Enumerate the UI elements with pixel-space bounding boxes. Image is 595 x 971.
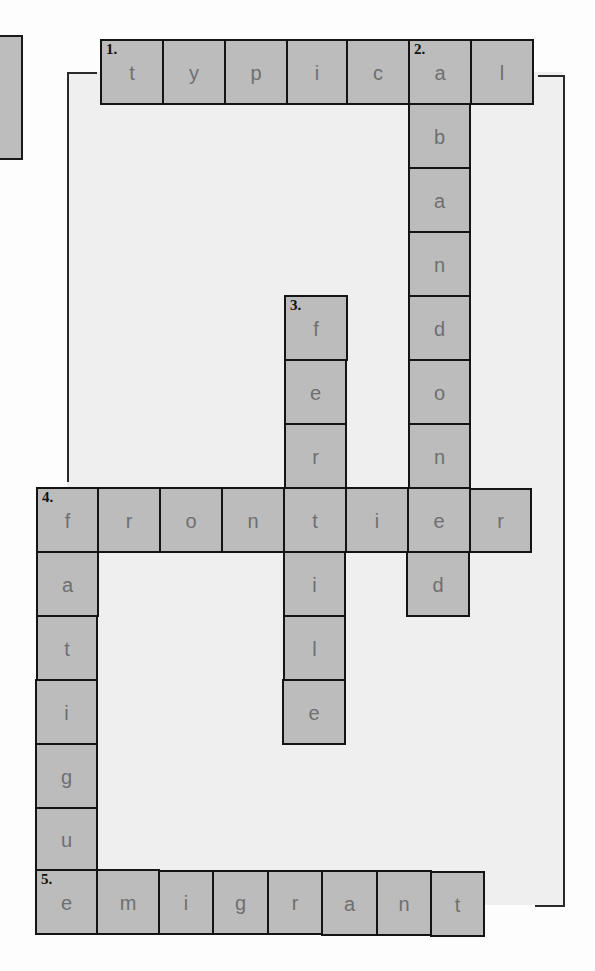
cell-4-across-5[interactable]: t	[283, 487, 347, 553]
cell-letter: e	[310, 382, 321, 405]
cell-1-across-4[interactable]: i	[286, 39, 348, 105]
cell-4-across-1[interactable]: 4. f	[36, 487, 99, 553]
cell-letter: r	[126, 510, 133, 533]
cell-letter: d	[434, 318, 445, 341]
cell-1-across-7[interactable]: l	[470, 39, 534, 105]
cell-letter: n	[247, 510, 258, 533]
cell-letter: u	[61, 829, 72, 852]
clue-number-1: 1.	[106, 42, 117, 57]
cell-letter: l	[500, 62, 504, 85]
cell-letter: y	[189, 62, 199, 85]
cell-3-down-2[interactable]: e	[284, 359, 347, 425]
cell-4-across-7[interactable]: e	[407, 487, 471, 553]
cell-5-across-5[interactable]: r	[267, 870, 323, 935]
cell-letter: e	[308, 702, 319, 725]
cell-4-across-3[interactable]: o	[159, 487, 223, 553]
cell-letter: o	[185, 510, 196, 533]
cell-letter: c	[373, 62, 383, 85]
cell-2-down-5[interactable]: d	[408, 295, 471, 361]
cell-1-across-1[interactable]: 1. t	[100, 39, 164, 105]
cell-2-down-4[interactable]: n	[408, 231, 471, 297]
cell-1-across-2[interactable]: y	[162, 39, 226, 105]
cell-5-across-6[interactable]: a	[321, 870, 378, 936]
cell-4-across-8[interactable]: r	[469, 488, 532, 553]
cell-2-down-2[interactable]: b	[408, 103, 471, 169]
cell-letter: i	[315, 62, 319, 85]
cell-5-across-2[interactable]: m	[96, 869, 160, 935]
cell-2-down-7[interactable]: n	[408, 423, 471, 489]
cell-letter: a	[434, 62, 445, 85]
cell-2-down-3[interactable]: a	[408, 167, 471, 233]
cell-2-down-9[interactable]: d	[406, 551, 470, 617]
cell-fatigue-3[interactable]: t	[36, 615, 98, 681]
cell-letter: g	[61, 766, 72, 789]
cell-letter: e	[433, 510, 444, 533]
cell-letter: a	[344, 893, 355, 916]
cell-3-down-6[interactable]: l	[283, 615, 346, 681]
cell-letter: n	[398, 893, 409, 916]
cell-letter: g	[235, 892, 246, 915]
cell-3-down-3[interactable]: r	[284, 423, 347, 489]
cell-5-across-8[interactable]: t	[430, 871, 485, 937]
left-bracket-vertical	[67, 72, 69, 482]
cell-2-down-6[interactable]: o	[408, 359, 471, 425]
cell-letter: r	[292, 892, 299, 915]
cell-letter: n	[434, 446, 445, 469]
partial-cell-left-edge	[0, 35, 23, 160]
cell-5-across-1[interactable]: 5. e	[35, 869, 98, 935]
right-bracket-top	[538, 75, 565, 77]
cell-3-down-7[interactable]: e	[282, 679, 346, 745]
cell-fatigue-5[interactable]: g	[35, 743, 98, 809]
cell-1-across-5[interactable]: c	[346, 39, 410, 105]
cell-4-across-4[interactable]: n	[221, 487, 285, 553]
cell-letter: r	[497, 510, 504, 533]
cell-4-across-6[interactable]: i	[345, 487, 409, 553]
cell-letter: d	[432, 574, 443, 597]
cell-letter: p	[250, 62, 261, 85]
cell-letter: a	[434, 190, 445, 213]
cell-5-across-7[interactable]: n	[376, 870, 432, 936]
clue-number-2: 2.	[414, 42, 425, 57]
cell-letter: f	[65, 510, 71, 533]
right-bracket-bottom	[535, 905, 565, 907]
cell-letter: i	[312, 574, 316, 597]
cell-letter: b	[434, 126, 445, 149]
cell-letter: i	[184, 892, 188, 915]
cell-letter: o	[434, 382, 445, 405]
cell-3-down-1[interactable]: 3. f	[284, 295, 348, 361]
left-bracket-top	[67, 72, 97, 74]
cell-letter: l	[312, 638, 316, 661]
cell-letter: i	[64, 702, 68, 725]
clue-number-3: 3.	[290, 298, 301, 313]
cell-1-across-3[interactable]: p	[224, 39, 288, 105]
cell-letter: m	[120, 892, 137, 915]
cell-letter: t	[64, 638, 70, 661]
right-bracket-vertical	[563, 75, 565, 907]
cell-letter: t	[129, 62, 135, 85]
cell-3-down-5[interactable]: i	[283, 551, 346, 617]
cell-letter: r	[312, 446, 319, 469]
cell-letter: i	[375, 510, 379, 533]
cell-5-across-4[interactable]: g	[212, 870, 269, 935]
cell-letter: n	[434, 254, 445, 277]
cell-letter: t	[455, 894, 461, 917]
clue-number-5: 5.	[41, 872, 52, 887]
cell-1-across-6-2-down-1[interactable]: 2. a	[408, 39, 472, 105]
cell-letter: e	[61, 892, 72, 915]
cell-letter: f	[313, 318, 319, 341]
cell-letter: a	[62, 574, 73, 597]
cell-4-across-2[interactable]: r	[97, 487, 161, 553]
crossword-page: 1. t y p i c 2. a l b a n d o n d 3.	[0, 0, 595, 971]
clue-number-4: 4.	[42, 490, 53, 505]
cell-letter: t	[312, 510, 318, 533]
cell-fatigue-2[interactable]: a	[36, 551, 99, 617]
cell-fatigue-6[interactable]: u	[35, 807, 98, 872]
cell-5-across-3[interactable]: i	[158, 870, 214, 935]
cell-fatigue-4[interactable]: i	[35, 679, 98, 745]
